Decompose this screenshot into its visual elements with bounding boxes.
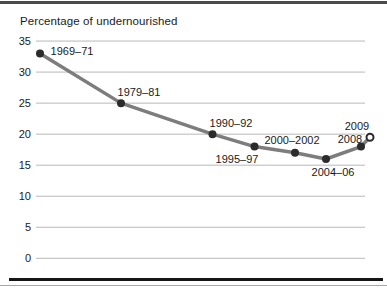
y-tick-label: 35 <box>19 35 31 47</box>
y-tick-label: 5 <box>25 221 31 233</box>
y-tick-label: 10 <box>19 190 31 202</box>
y-tick-label: 15 <box>19 159 31 171</box>
data-point-open <box>367 134 374 141</box>
data-point <box>251 143 259 151</box>
chart-svg: 353025201510501969–711979–811990–921995–… <box>0 0 387 292</box>
y-tick-label: 25 <box>19 97 31 109</box>
data-point <box>291 149 299 157</box>
data-point <box>322 155 330 163</box>
trend-line <box>40 53 370 159</box>
point-label: 2008 <box>338 133 362 145</box>
undernourishment-figure: Percentage of undernourished 35302520151… <box>0 0 387 292</box>
bottom-rule-thin <box>0 285 387 286</box>
y-tick-label: 30 <box>19 66 31 78</box>
point-label: 2004–06 <box>312 166 355 178</box>
point-label: 1990–92 <box>210 117 253 129</box>
data-point <box>117 99 125 107</box>
point-label: 1995–97 <box>216 153 259 165</box>
data-point <box>209 130 217 138</box>
point-label: 2000–2002 <box>264 134 319 146</box>
y-tick-label: 20 <box>19 128 31 140</box>
bottom-rule-thick <box>9 278 383 281</box>
y-tick-label: 0 <box>25 252 31 264</box>
point-label: 1979–81 <box>118 86 161 98</box>
point-label: 2009 <box>345 120 369 132</box>
point-label: 1969–71 <box>51 45 94 57</box>
data-point <box>36 49 44 57</box>
